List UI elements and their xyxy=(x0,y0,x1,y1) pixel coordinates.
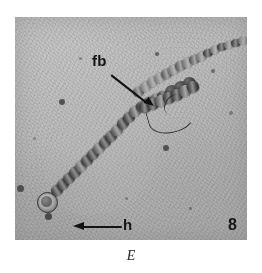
micrograph-image: fb h 8 xyxy=(15,17,247,240)
annotation-arrow-fb xyxy=(111,74,165,114)
arrow-head xyxy=(144,97,157,109)
arrow-head xyxy=(73,222,84,230)
arrow-shaft xyxy=(110,74,146,103)
figure-plate: fb h 8 E xyxy=(0,0,262,273)
annotation-label-h: h xyxy=(123,217,132,232)
plate-number: 8 xyxy=(228,216,237,234)
annotation-arrow-h xyxy=(73,222,121,232)
trichome-cell xyxy=(237,36,247,45)
arrow-shaft xyxy=(82,226,122,228)
annotation-label-fb: fb xyxy=(92,53,107,68)
panel-caption: E xyxy=(0,248,262,264)
trichome-filament xyxy=(15,17,247,240)
